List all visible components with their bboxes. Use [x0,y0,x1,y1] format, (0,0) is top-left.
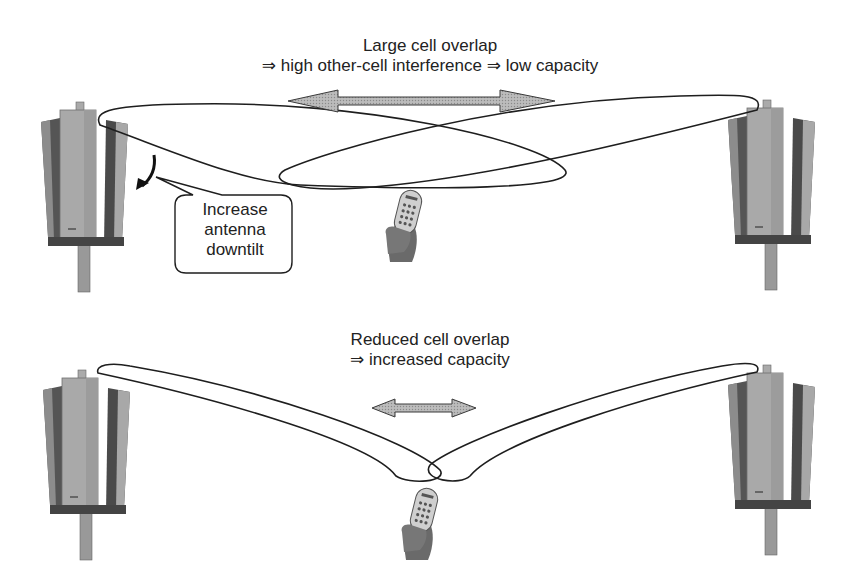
left-beam-lobe [98,104,566,188]
downtilt-callout-text: Increase antenna downtilt [180,200,290,260]
right-antenna-icon-bottom [728,365,815,555]
right-beam-lobe [279,95,758,189]
callout-line3: downtilt [180,240,290,260]
left-antenna-icon-bottom [43,370,130,560]
right-beam-lobe-bottom [428,364,757,481]
callout-line1: Increase [180,200,290,220]
callout-line2: antenna [180,220,290,240]
bottom-caption-line1: Reduced cell overlap [300,330,560,350]
handset-icon-bottom [402,486,440,560]
top-caption: Large cell overlap ⇒ high other-cell int… [220,36,640,76]
bottom-panel [43,364,815,560]
overlap-double-arrow-icon-bottom [372,399,476,417]
bottom-caption-line2: ⇒ increased capacity [300,350,560,370]
bottom-caption: Reduced cell overlap ⇒ increased capacit… [300,330,560,370]
right-antenna-icon [728,100,815,290]
top-caption-line1: Large cell overlap [220,36,640,56]
handset-icon-top [386,188,424,262]
overlap-double-arrow-icon [288,90,555,112]
left-beam-lobe-bottom [98,364,441,481]
diagram-canvas [0,0,859,581]
top-panel [41,90,815,292]
top-caption-line2: ⇒ high other-cell interference ⇒ low cap… [220,56,640,76]
